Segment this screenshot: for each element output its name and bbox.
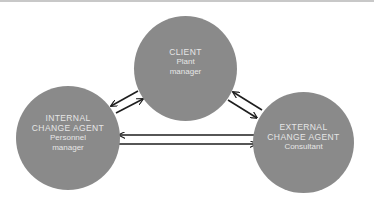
node-internal-title: INTERNAL CHANGE AGENT	[32, 113, 104, 133]
node-client-role: Plant manager	[169, 57, 202, 77]
arrow-client-to-external	[228, 100, 257, 118]
node-client: CLIENT Plant manager	[134, 16, 237, 121]
node-internal-change-agent: INTERNAL CHANGE AGENT Personnel manager	[16, 86, 120, 190]
node-external-role: Consultant	[267, 142, 339, 152]
arrow-external-to-client	[233, 92, 262, 110]
node-external-title: EXTERNAL CHANGE AGENT	[267, 122, 339, 142]
node-internal-role: Personnel manager	[32, 133, 104, 153]
node-external-change-agent: EXTERNAL CHANGE AGENT Consultant	[253, 92, 354, 193]
node-client-title: CLIENT	[169, 47, 202, 57]
